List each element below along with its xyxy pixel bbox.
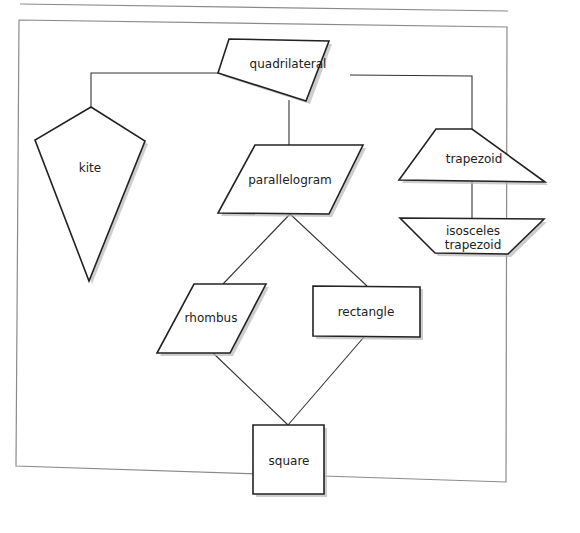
top-rule-line <box>20 4 508 11</box>
node-isosceles-label-line2: trapezoid <box>445 238 502 252</box>
node-isosceles-trapezoid: isosceles trapezoid <box>400 218 547 257</box>
node-quadrilateral-label: quadrilateral <box>250 57 327 71</box>
node-isosceles-label-line1: isosceles <box>446 224 500 238</box>
node-rhombus-label: rhombus <box>185 311 238 325</box>
edge-parallelogram-rectangle <box>290 214 367 286</box>
node-parallelogram-label: parallelogram <box>248 173 332 187</box>
node-parallelogram: parallelogram <box>218 145 366 217</box>
node-square: square <box>253 425 327 497</box>
node-rectangle: rectangle <box>313 286 423 340</box>
node-rectangle-label: rectangle <box>338 305 395 319</box>
edge-quadrilateral-kite <box>91 73 218 107</box>
quadrilateral-hierarchy-diagram: quadrilateral kite parallelogram trapezo… <box>0 0 580 533</box>
edge-parallelogram-rhombus <box>223 214 290 284</box>
edge-quadrilateral-trapezoid <box>350 75 472 129</box>
edge-rectangle-square <box>288 337 364 425</box>
connectors <box>91 73 472 425</box>
node-kite-label: kite <box>79 161 101 175</box>
node-trapezoid: trapezoid <box>399 129 548 185</box>
node-kite: kite <box>35 107 148 284</box>
node-quadrilateral: quadrilateral <box>218 39 332 104</box>
node-rhombus: rhombus <box>157 284 269 356</box>
edge-rhombus-square <box>213 353 288 425</box>
node-square-label: square <box>269 454 310 468</box>
node-trapezoid-label: trapezoid <box>446 152 503 166</box>
